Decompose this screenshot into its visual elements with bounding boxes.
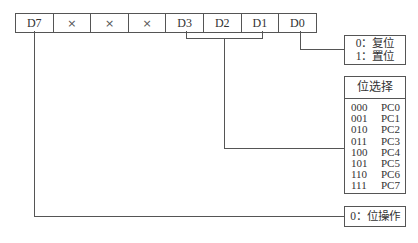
bit-d4-unused: ×	[129, 14, 167, 32]
control-word-register: D7 × × × D3 D2 D1 D0	[15, 13, 317, 33]
d0-right-connector	[300, 49, 344, 50]
d0-down-connector	[300, 31, 301, 50]
bracket-down-connector	[224, 38, 225, 149]
bit-select-box: 位选择 000PC0 001PC1 010PC2 011PC3 100PC4 1…	[344, 76, 406, 194]
reset-set-box: 0：复位 1：置位	[344, 35, 406, 65]
bit-operation-label: 0：位操作	[350, 210, 400, 222]
bit-d1: D1	[242, 14, 280, 32]
bit-d7: D7	[16, 14, 54, 32]
bit-d2: D2	[204, 14, 242, 32]
d7-down-connector	[34, 31, 35, 217]
bit-d3: D3	[166, 14, 204, 32]
port: PC7	[381, 180, 400, 191]
reset-label: 0：复位	[345, 37, 405, 50]
port: PC2	[381, 124, 400, 135]
code: 010	[351, 124, 381, 135]
bit-select-row: 111PC7	[351, 180, 405, 191]
bit-select-row: 010PC2	[351, 124, 405, 135]
bit-operation-box: 0：位操作	[344, 206, 406, 227]
bit-select-connector	[224, 148, 344, 149]
bit-d6-unused: ×	[54, 14, 92, 32]
bit-select-title: 位选择	[345, 77, 405, 99]
code: 111	[351, 180, 381, 191]
bit-select-table: 000PC0 001PC1 010PC2 011PC3 100PC4 101PC…	[345, 99, 405, 192]
bit-d0: D0	[279, 14, 317, 32]
bit-d5-unused: ×	[91, 14, 129, 32]
d7-right-connector	[34, 216, 344, 217]
set-label: 1：置位	[345, 50, 405, 63]
